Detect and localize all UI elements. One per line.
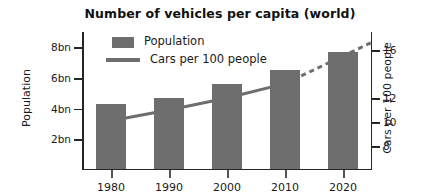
y-axis-right-tick bbox=[372, 98, 380, 100]
y-axis-left-tick-label: 2bn bbox=[51, 134, 71, 145]
y-axis-right-tick bbox=[372, 146, 380, 148]
y-axis-left-tick bbox=[74, 139, 82, 141]
y-axis-right-tick-label: 12 bbox=[383, 93, 396, 104]
y-axis-left-tick bbox=[74, 109, 82, 111]
y-axis-right-tick-label: 8 bbox=[383, 141, 390, 152]
y-axis-right-tick-label: 10 bbox=[383, 117, 396, 128]
plot-area: 2bn4bn6bn8bn 8101216 1980199020002010202… bbox=[82, 32, 372, 170]
x-axis-tick-label: 2000 bbox=[213, 182, 241, 193]
line-segment-projected bbox=[285, 42, 372, 83]
y-axis-left-tick bbox=[74, 78, 82, 80]
x-axis-tick bbox=[285, 170, 287, 178]
y-axis-left-tick-label: 6bn bbox=[51, 73, 71, 84]
y-axis-left-tick-label: 4bn bbox=[51, 104, 71, 115]
x-axis-tick-label: 2010 bbox=[271, 182, 299, 193]
x-axis-tick bbox=[343, 170, 345, 178]
y-axis-left-title: Population bbox=[21, 69, 32, 127]
chart-container: Number of vehicles per capita (world) Po… bbox=[0, 0, 440, 196]
x-axis-tick bbox=[227, 170, 229, 178]
y-axis-left-tick bbox=[74, 47, 82, 49]
x-axis-tick-label: 1980 bbox=[97, 182, 125, 193]
x-axis-tick-label: 1990 bbox=[155, 182, 183, 193]
y-axis-right-tick bbox=[372, 50, 380, 52]
x-axis-tick bbox=[111, 170, 113, 178]
chart-title: Number of vehicles per capita (world) bbox=[0, 6, 440, 21]
y-axis-left-tick-label: 8bn bbox=[51, 42, 71, 53]
line-segment-actual bbox=[111, 84, 285, 121]
line-series bbox=[82, 32, 372, 170]
x-axis-tick bbox=[169, 170, 171, 178]
y-axis-right-tick bbox=[372, 122, 380, 124]
y-axis-right-tick-label: 16 bbox=[383, 45, 396, 56]
x-axis-tick-label: 2020 bbox=[329, 182, 357, 193]
